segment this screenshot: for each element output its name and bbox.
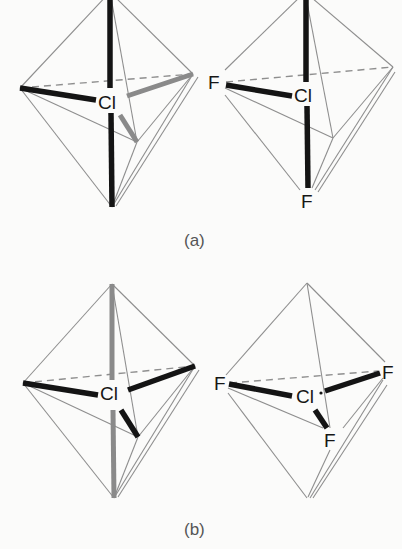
caption-a: (a) xyxy=(184,231,205,250)
central-atom-cl: Cl xyxy=(296,386,314,407)
ligand-f-left: F xyxy=(214,373,226,394)
octahedron-a-right: Cl F F xyxy=(208,0,395,212)
central-atom-cl: Cl xyxy=(98,92,116,113)
central-atom-cl: Cl xyxy=(294,85,312,106)
octahedron-b-left: Cl xyxy=(23,284,199,498)
octahedron-b-right: Cl F F F xyxy=(214,283,394,498)
caption-b: (b) xyxy=(184,520,205,539)
ligand-f-right: F xyxy=(382,362,394,383)
ligand-f-front: F xyxy=(324,430,336,451)
ligand-f-bottom: F xyxy=(301,191,313,212)
ligand-f-left: F xyxy=(208,72,220,93)
octahedron-a-left: Cl xyxy=(20,0,198,207)
central-atom-cl: Cl xyxy=(100,383,118,404)
octahedral-geometry-figure: Cl Cl F F (a) xyxy=(0,0,402,549)
